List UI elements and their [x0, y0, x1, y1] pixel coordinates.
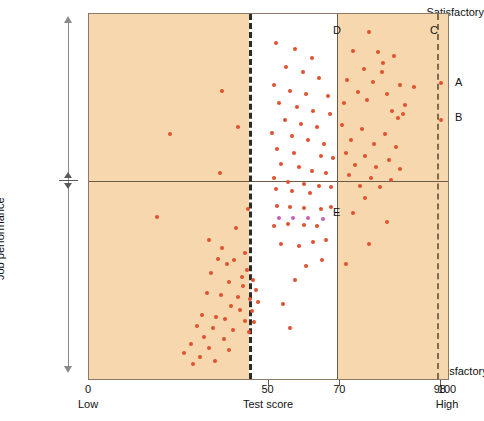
- data-point: [299, 122, 303, 126]
- data-point: [243, 319, 247, 323]
- data-point: [362, 67, 366, 71]
- data-point: [367, 30, 371, 34]
- data-point: [205, 291, 209, 295]
- data-point: [403, 103, 407, 107]
- data-point: [311, 109, 315, 113]
- y-axis-midpoint-down-arrow-icon: [64, 183, 72, 189]
- shaded-band-below-50: [89, 14, 249, 379]
- data-point: [306, 216, 310, 220]
- data-point: [353, 163, 357, 167]
- data-point: [324, 171, 328, 175]
- zone-label-e: E: [333, 207, 340, 218]
- data-point: [272, 224, 276, 228]
- data-point: [319, 154, 323, 158]
- data-point: [207, 238, 211, 242]
- data-point: [290, 134, 294, 138]
- data-point: [202, 335, 206, 339]
- data-point: [349, 138, 353, 142]
- data-point: [320, 258, 324, 262]
- data-point: [288, 326, 292, 330]
- data-point: [351, 49, 355, 53]
- data-point: [301, 70, 305, 74]
- data-point: [317, 184, 321, 188]
- data-point: [326, 94, 330, 98]
- data-point: [232, 258, 236, 262]
- data-point: [195, 324, 199, 328]
- data-point: [225, 262, 229, 266]
- data-point: [222, 337, 226, 341]
- data-point: [277, 101, 281, 105]
- data-point: [241, 284, 245, 288]
- y-axis-midpoint-up-arrow-icon: [64, 172, 72, 178]
- data-point: [310, 56, 314, 60]
- data-point: [304, 264, 308, 268]
- data-point: [315, 125, 319, 129]
- data-point: [308, 191, 312, 195]
- data-point: [219, 293, 223, 297]
- data-point: [347, 173, 351, 177]
- cutoff-line-70: [337, 14, 338, 379]
- data-point: [155, 215, 159, 219]
- data-point: [380, 70, 384, 74]
- data-point: [321, 217, 325, 221]
- data-point: [311, 240, 315, 244]
- data-point: [214, 315, 218, 319]
- data-point: [302, 206, 306, 210]
- data-point: [288, 205, 292, 209]
- data-point: [207, 346, 211, 350]
- data-point: [227, 348, 231, 352]
- data-point: [398, 167, 402, 171]
- data-point: [363, 154, 367, 158]
- data-point: [387, 158, 391, 162]
- data-point: [279, 162, 283, 166]
- data-point: [295, 105, 299, 109]
- performance-midline: [89, 181, 448, 182]
- data-point: [200, 313, 204, 317]
- data-point: [254, 288, 258, 292]
- data-point: [290, 189, 294, 193]
- data-point: [246, 207, 250, 211]
- data-point: [286, 180, 290, 184]
- data-point: [270, 131, 274, 135]
- data-point: [284, 65, 288, 69]
- data-point: [360, 127, 364, 131]
- data-point: [182, 351, 186, 355]
- data-point: [236, 295, 240, 299]
- data-point: [331, 156, 335, 160]
- data-point: [344, 151, 348, 155]
- data-point: [209, 271, 213, 275]
- data-point: [376, 50, 380, 54]
- data-point: [351, 211, 355, 215]
- data-point: [274, 187, 278, 191]
- data-point: [345, 78, 349, 82]
- y-axis-title: Job performance: [0, 197, 6, 280]
- data-point: [281, 302, 285, 306]
- data-point: [291, 216, 295, 220]
- data-point: [392, 54, 396, 58]
- x-axis-sub-label: Low: [78, 398, 98, 410]
- data-point: [319, 207, 323, 211]
- data-point: [369, 176, 373, 180]
- data-point: [191, 362, 195, 366]
- data-point: [252, 320, 256, 324]
- data-point: [277, 216, 281, 220]
- data-point: [251, 278, 255, 282]
- data-point: [412, 85, 416, 89]
- data-point: [439, 81, 443, 85]
- cutoff-line-50: [249, 14, 252, 379]
- data-point: [390, 109, 394, 113]
- data-point: [365, 98, 369, 102]
- data-point: [218, 171, 222, 175]
- data-point: [371, 80, 375, 84]
- x-axis-title: Test score: [243, 398, 293, 410]
- data-point: [302, 223, 306, 227]
- data-point: [283, 118, 287, 122]
- scatter-plot-figure: Satisfactory Unsatisfactory Job performa…: [0, 0, 484, 421]
- data-point: [213, 359, 217, 363]
- data-point: [220, 246, 224, 250]
- data-point: [378, 185, 382, 189]
- data-point: [297, 165, 301, 169]
- data-point: [324, 238, 328, 242]
- zone-label-c: C: [430, 25, 438, 36]
- data-point: [238, 308, 242, 312]
